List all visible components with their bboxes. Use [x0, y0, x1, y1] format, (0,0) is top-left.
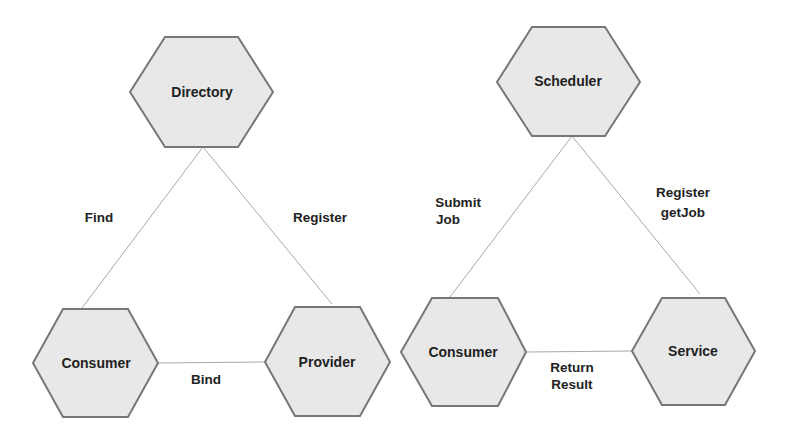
- edge-label-register-getjob: getJob: [661, 205, 705, 220]
- service-directory-diagram: Directory Consumer Provider Find Registe…: [33, 37, 390, 417]
- edge-consumer-service: [526, 351, 632, 352]
- node-label-directory: Directory: [171, 84, 233, 100]
- edge-label-register-getjob: Register: [656, 185, 711, 200]
- edge-label-bind: Bind: [191, 372, 221, 387]
- node-consumer: Consumer: [401, 298, 526, 406]
- edge-provider-directory: [203, 147, 332, 304]
- node-provider: Provider: [265, 307, 390, 416]
- architecture-diagram: Directory Consumer Provider Find Registe…: [0, 0, 787, 435]
- edge-consumer-provider: [158, 362, 265, 363]
- edge-consumer-directory: [82, 147, 203, 308]
- node-service: Service: [632, 298, 755, 405]
- edge-label-find: Find: [85, 210, 114, 225]
- node-label-provider: Provider: [299, 354, 356, 370]
- edge-label-submit-job: Job: [436, 212, 460, 227]
- node-label-service: Service: [668, 343, 718, 359]
- edge-label-return-result: Result: [551, 377, 593, 392]
- edge-label-register: Register: [293, 210, 348, 225]
- node-label-consumer: Consumer: [428, 344, 498, 360]
- node-scheduler: Scheduler: [497, 27, 640, 136]
- node-directory: Directory: [130, 37, 273, 147]
- node-consumer: Consumer: [33, 309, 158, 417]
- edge-label-submit-job: Submit: [435, 195, 481, 210]
- scheduler-diagram: Scheduler Consumer Service Submit Job Re…: [401, 27, 755, 406]
- node-label-consumer: Consumer: [61, 355, 131, 371]
- edge-label-return-result: Return: [550, 360, 594, 375]
- node-label-scheduler: Scheduler: [534, 73, 602, 89]
- edge-consumer-scheduler: [450, 136, 572, 297]
